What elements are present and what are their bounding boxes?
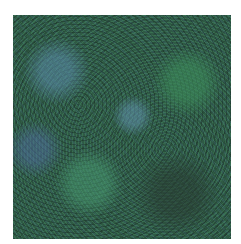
- texture-swatch: [13, 15, 231, 239]
